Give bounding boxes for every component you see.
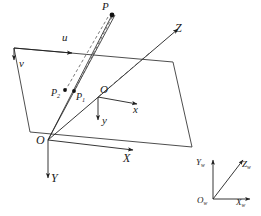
label-origin-image-O: O (100, 84, 108, 95)
label-axis-X-big: X (123, 152, 130, 164)
point-P-marker (110, 13, 115, 18)
camera-axis-Z (48, 29, 178, 140)
diagram-vector-layer (0, 0, 261, 216)
label-axis-v: v (19, 58, 24, 69)
label-origin-camera-O: O (36, 134, 45, 146)
label-world-axis-Zw-sub: w (247, 164, 251, 170)
image-axis-x (98, 97, 137, 104)
label-axis-u: u (62, 32, 68, 43)
label-world-axis-Xw-sub: w (242, 202, 246, 208)
label-point-P1: P1 (76, 92, 85, 102)
label-point-P1-sub: 1 (82, 96, 85, 103)
label-world-axis-Xw-base: X (236, 197, 242, 207)
label-world-axis-Zw: Zw (242, 160, 251, 169)
figure-canvas: P P1 P2 u v O x y O X Y Z Ow Xw Yw Zw (0, 0, 261, 216)
point-P2-marker (63, 88, 67, 92)
label-axis-Z-big: Z (175, 22, 182, 34)
label-world-axis-Yw: Yw (196, 158, 205, 167)
label-world-origin-Ow: Ow (197, 196, 207, 205)
label-world-origin-Ow-sub: w (204, 200, 208, 206)
label-point-P2-sub: 2 (57, 92, 60, 99)
label-world-axis-Yw-sub: w (201, 162, 205, 168)
camera-axis-X (48, 140, 133, 150)
label-axis-x-small: x (133, 104, 138, 115)
label-point-P: P (102, 1, 109, 12)
label-world-origin-Ow-base: O (197, 195, 204, 205)
label-axis-Y-big: Y (51, 172, 58, 184)
label-point-P2: P2 (51, 88, 60, 98)
u-axis (14, 48, 72, 53)
label-axis-y-small: y (102, 115, 107, 126)
label-world-axis-Xw: Xw (236, 198, 245, 207)
world-axis-Zw (213, 160, 243, 199)
